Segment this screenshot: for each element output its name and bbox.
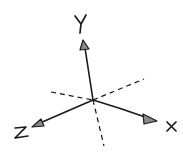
z-axis-arrowhead-icon xyxy=(32,119,44,127)
axes-diagram: Y X Z xyxy=(0,0,183,158)
x-axis-arrowhead-icon xyxy=(143,114,157,124)
y-axis-line xyxy=(85,48,93,100)
negative-y-dashed-axis xyxy=(93,100,104,146)
y-axis-label: Y xyxy=(75,15,86,33)
x-axis-label: X xyxy=(167,122,176,131)
negative-z-dashed-axis xyxy=(93,79,144,100)
x-axis-line xyxy=(93,100,145,117)
z-axis-label: Z xyxy=(15,127,28,138)
y-axis-arrowhead-icon xyxy=(80,40,89,50)
z-axis-line xyxy=(40,100,93,123)
negative-x-dashed-axis xyxy=(51,92,93,100)
